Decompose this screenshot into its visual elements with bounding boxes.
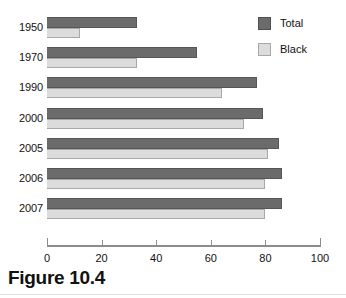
x-axis-tick — [211, 240, 212, 247]
bar-black — [47, 149, 268, 159]
y-axis-label: 2000 — [3, 113, 43, 124]
x-axis-tick-labels: 020406080100 — [47, 252, 320, 266]
bar-black — [47, 88, 222, 98]
y-axis-label: 1950 — [3, 22, 43, 33]
bar-total — [47, 47, 197, 58]
legend-swatch-icon — [258, 43, 271, 56]
bar-black — [47, 119, 244, 129]
bar-black — [47, 28, 80, 38]
bar-total — [47, 168, 282, 179]
figure-container: 1950197019902000200520062007 02040608010… — [0, 0, 346, 298]
bar-group — [47, 198, 320, 219]
x-axis-tick-label: 20 — [95, 252, 107, 265]
legend-item: Black — [258, 40, 342, 58]
chart-legend: TotalBlack — [258, 14, 342, 66]
legend-label: Black — [280, 44, 307, 55]
bar-total — [47, 77, 257, 88]
x-axis-tick — [102, 240, 103, 247]
legend-label: Total — [280, 18, 303, 29]
bar-total — [47, 17, 137, 28]
x-axis-tick-label: 100 — [311, 252, 329, 265]
y-axis-label: 2006 — [3, 173, 43, 184]
x-axis-line — [47, 245, 320, 247]
bar-group — [47, 138, 320, 159]
y-axis-label: 1990 — [3, 82, 43, 93]
bar-black — [47, 179, 265, 189]
bar-total — [47, 108, 263, 119]
x-axis-tick — [320, 238, 321, 247]
x-axis-tick-label: 0 — [44, 252, 50, 265]
bar-black — [47, 209, 265, 219]
legend-swatch-icon — [258, 17, 271, 30]
bar-group — [47, 77, 320, 98]
bar-black — [47, 58, 137, 68]
x-axis-tick-label: 60 — [205, 252, 217, 265]
x-axis-tick-label: 40 — [150, 252, 162, 265]
bar-group — [47, 168, 320, 189]
y-axis-category-labels: 1950197019902000200520062007 — [0, 13, 43, 238]
y-axis-label: 2005 — [3, 143, 43, 154]
x-axis-tick — [47, 238, 48, 247]
bar-group — [47, 108, 320, 129]
bar-total — [47, 198, 282, 209]
x-axis-tick — [156, 240, 157, 247]
bar-total — [47, 138, 279, 149]
figure-caption: Figure 10.4 — [8, 267, 105, 289]
y-axis-label: 2007 — [3, 203, 43, 214]
caption-divider — [0, 294, 346, 295]
x-axis-tick-label: 80 — [259, 252, 271, 265]
y-axis-label: 1970 — [3, 52, 43, 63]
legend-item: Total — [258, 14, 342, 32]
x-axis-tick — [265, 240, 266, 247]
